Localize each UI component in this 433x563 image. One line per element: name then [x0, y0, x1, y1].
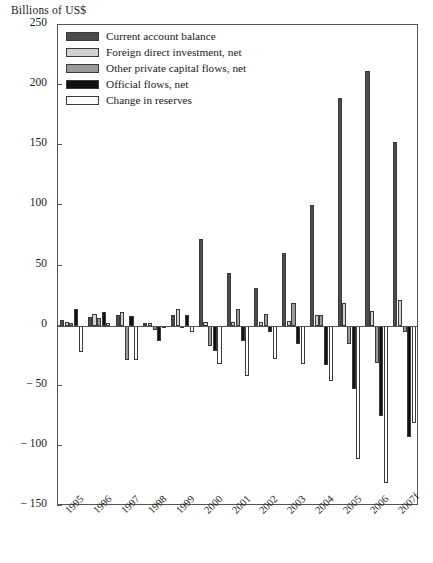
bar	[88, 317, 92, 325]
bar	[282, 253, 286, 325]
y-axis-tick-mark	[57, 265, 62, 266]
bar	[236, 309, 240, 326]
bar	[329, 326, 333, 381]
dark-gray-swatch-icon	[66, 32, 99, 41]
legend-item: Official flows, net	[66, 77, 246, 91]
legend-item: Current account balance	[66, 29, 246, 43]
chart-legend: Current account balanceForeign direct in…	[66, 29, 246, 107]
bar	[171, 315, 175, 326]
bar	[241, 326, 245, 342]
y-axis-tick-label: 50	[36, 257, 48, 269]
y-axis-tick-label: 200	[30, 76, 47, 88]
x-axis-labels: 1995199619971998199920002001200220032004…	[57, 508, 418, 563]
bar	[407, 326, 411, 438]
bar	[291, 303, 295, 326]
y-axis-tick-label: 150	[30, 136, 47, 148]
bar	[384, 326, 388, 484]
bar	[370, 311, 374, 325]
bar	[398, 300, 402, 325]
bar	[129, 316, 133, 326]
bar	[97, 318, 101, 325]
legend-item-label: Official flows, net	[106, 78, 188, 91]
y-axis-tick-label: 250	[30, 16, 47, 28]
bar	[125, 326, 129, 361]
y-axis-tick-mark	[57, 84, 62, 85]
bar	[319, 315, 323, 326]
y-axis-title: Billions of US$	[11, 4, 86, 16]
bar	[176, 309, 180, 326]
bar	[185, 315, 189, 326]
bar	[393, 142, 397, 326]
bar	[208, 326, 212, 346]
bar	[213, 326, 217, 351]
bar	[379, 326, 383, 416]
legend-item: Other private capital flows, net	[66, 61, 246, 75]
bar	[227, 273, 231, 326]
bar	[296, 326, 300, 344]
bar	[342, 303, 346, 326]
bar	[157, 326, 161, 342]
legend-item-label: Current account balance	[106, 30, 216, 43]
y-axis-tick-label: 0	[41, 317, 47, 329]
y-axis-tick-mark	[57, 24, 62, 25]
y-axis-tick-mark	[57, 385, 62, 386]
bar	[264, 314, 268, 326]
bar	[245, 326, 249, 377]
bar	[365, 71, 369, 326]
y-axis-tick-mark	[57, 325, 62, 326]
bar	[74, 309, 78, 326]
y-axis-tick-label: − 50	[26, 377, 47, 389]
bar-group	[363, 25, 391, 504]
legend-item: Foreign direct investment, net	[66, 45, 246, 59]
bar-group	[252, 25, 280, 504]
bar	[301, 326, 305, 364]
bar	[199, 239, 203, 326]
bar	[310, 205, 314, 325]
y-axis-tick-mark	[57, 144, 62, 145]
bar-group	[308, 25, 336, 504]
y-axis-tick-label: − 150	[20, 497, 47, 509]
bar	[116, 315, 120, 326]
bar	[102, 312, 106, 325]
zero-baseline	[58, 326, 417, 327]
chart-root: Billions of US$ 250200150100500− 50− 100…	[0, 0, 433, 563]
legend-item-label: Foreign direct investment, net	[106, 46, 242, 59]
y-axis-tick-label: − 100	[20, 437, 47, 449]
bar	[120, 312, 124, 325]
y-axis-tick-mark	[57, 204, 62, 205]
bar	[217, 326, 221, 364]
bar	[352, 326, 356, 390]
bar	[254, 288, 258, 325]
y-axis-tick-mark	[57, 505, 62, 506]
legend-item: Change in reserves	[66, 93, 246, 107]
bar	[356, 326, 360, 459]
bar	[92, 314, 96, 326]
legend-item-label: Other private capital flows, net	[106, 62, 246, 75]
bar	[315, 315, 319, 326]
bar-group	[391, 25, 417, 504]
bar-group	[280, 25, 308, 504]
bar	[79, 326, 83, 352]
bar-group	[336, 25, 364, 504]
y-axis-tick-mark	[57, 445, 62, 446]
black-swatch-icon	[66, 80, 99, 89]
medium-gray-swatch-icon	[66, 64, 99, 73]
bar	[273, 326, 277, 360]
light-gray-swatch-icon	[66, 48, 99, 57]
bar	[338, 98, 342, 325]
bar	[134, 326, 138, 361]
bar	[375, 326, 379, 363]
bar	[412, 326, 416, 423]
white-swatch-icon	[66, 96, 99, 105]
y-axis-tick-label: 100	[30, 196, 47, 208]
bar	[347, 326, 351, 344]
bar	[324, 326, 328, 366]
legend-item-label: Change in reserves	[106, 94, 192, 107]
